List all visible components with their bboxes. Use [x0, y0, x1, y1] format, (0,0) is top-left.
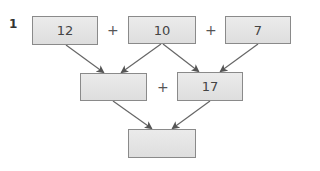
plus-operator: + — [205, 22, 217, 38]
box-row1-10: 10 — [128, 16, 196, 44]
box-row2-blank-input[interactable] — [80, 73, 147, 101]
arrow-right-to-bottom — [173, 101, 210, 128]
box-value: 17 — [202, 79, 219, 94]
box-row1-12: 12 — [32, 16, 98, 45]
arrow-12-to-left — [66, 45, 103, 72]
box-row1-7: 7 — [225, 16, 291, 44]
arrow-7-to-right — [221, 44, 258, 71]
box-row2-17: 17 — [177, 72, 243, 101]
plus-operator: + — [157, 79, 169, 95]
box-value: 12 — [57, 23, 74, 38]
box-value: 7 — [254, 23, 262, 38]
arrow-10-to-right — [163, 44, 198, 71]
arrow-10-to-left — [122, 44, 161, 72]
plus-operator: + — [107, 22, 119, 38]
arrow-left-to-bottom — [113, 101, 151, 128]
box-row3-blank-input[interactable] — [128, 129, 196, 158]
box-value: 10 — [154, 23, 171, 38]
